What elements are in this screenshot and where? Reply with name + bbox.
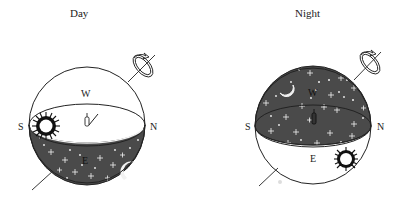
observer-icon [85,113,98,126]
label-south: S [245,121,251,132]
label-north: N [150,121,157,132]
axis-line-south [259,168,278,186]
label-east: E [310,153,316,164]
label-south: S [18,121,24,132]
label-west: W [308,87,317,98]
day-panel: Day [0,0,201,200]
label-east: E [82,155,88,166]
label-north: N [377,121,384,132]
axis-line-south [32,170,54,190]
day-celestial-sphere [0,0,201,200]
night-panel: Night [201,0,402,200]
sun-icon [32,112,60,140]
axis-line-north [128,55,155,82]
sun-icon [334,147,358,171]
smudge-mark [278,180,282,184]
label-west: W [81,88,90,99]
night-celestial-sphere [201,0,402,200]
